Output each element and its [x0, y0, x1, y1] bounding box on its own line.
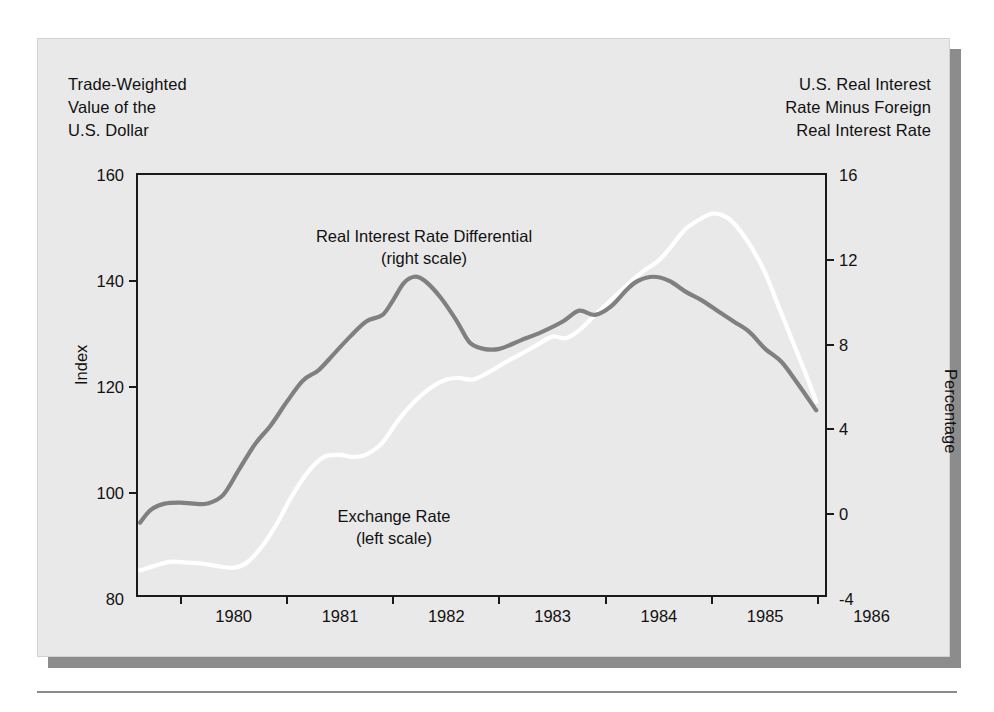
- x-axis-tick-label: 1980: [215, 607, 252, 626]
- footer-rule: [37, 691, 957, 693]
- x-axis-tick-label: 1984: [641, 607, 678, 626]
- left-axis-tick-label: 100: [96, 484, 124, 503]
- x-axis-tick: [711, 595, 713, 604]
- right-axis-tick-label: 8: [839, 335, 848, 354]
- left-axis-tick-label: 140: [96, 272, 124, 291]
- x-axis-tick: [180, 595, 182, 604]
- right-axis-tick: [825, 344, 834, 346]
- left-axis-tick-label: 80: [106, 590, 124, 609]
- left-axis-tick-label: 160: [96, 166, 124, 185]
- x-axis-tick-label: 1982: [428, 607, 465, 626]
- right-axis-tick-label: 16: [839, 166, 857, 185]
- x-axis-tick: [392, 595, 394, 604]
- x-axis-tick: [817, 595, 819, 604]
- left-axis-title: Index: [72, 345, 91, 385]
- x-axis-tick: [498, 595, 500, 604]
- caption-right: U.S. Real Interest Rate Minus Foreign Re…: [785, 73, 931, 142]
- left-axis-tick: [129, 386, 138, 388]
- figure-page: Trade-Weighted Value of the U.S. Dollar …: [0, 0, 994, 712]
- right-axis-tick-label: -4: [839, 590, 854, 609]
- right-axis-tick: [825, 259, 834, 261]
- left-axis-tick-label: 120: [96, 378, 124, 397]
- caption-left: Trade-Weighted Value of the U.S. Dollar: [68, 73, 187, 142]
- x-axis-tick-label: 1986: [853, 607, 890, 626]
- x-axis-tick: [286, 595, 288, 604]
- x-axis-tick-label: 1983: [534, 607, 571, 626]
- right-axis-tick: [825, 428, 834, 430]
- right-axis-tick-label: 0: [839, 505, 848, 524]
- x-axis-tick-label: 1985: [747, 607, 784, 626]
- plot-area: 80100120140160 -40481216 198019811982198…: [136, 173, 827, 597]
- annotation-differential: Real Interest Rate Differential (right s…: [316, 225, 532, 269]
- right-axis-tick-label: 4: [839, 420, 848, 439]
- right-axis-tick-label: 12: [839, 250, 857, 269]
- right-axis-title: Percentage: [941, 369, 960, 453]
- right-axis-tick: [825, 513, 834, 515]
- left-axis-tick: [129, 280, 138, 282]
- annotation-exchange-rate: Exchange Rate (left scale): [338, 505, 451, 549]
- left-axis-tick: [129, 492, 138, 494]
- x-axis-tick-label: 1981: [322, 607, 359, 626]
- x-axis-tick: [605, 595, 607, 604]
- series-line: [140, 277, 816, 523]
- chart-panel: Trade-Weighted Value of the U.S. Dollar …: [37, 38, 950, 657]
